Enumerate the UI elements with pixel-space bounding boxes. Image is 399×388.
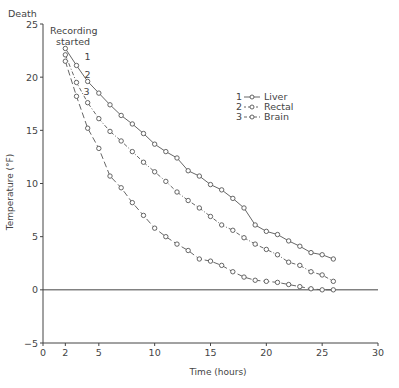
series-line-rectal <box>65 55 333 281</box>
data-point <box>275 232 279 236</box>
data-point <box>286 282 290 286</box>
data-point <box>242 236 246 240</box>
data-point <box>309 270 313 274</box>
data-point <box>309 250 313 254</box>
data-point <box>152 226 156 230</box>
data-point <box>108 174 112 178</box>
data-point <box>264 279 268 283</box>
data-point <box>186 198 190 202</box>
x-axis-title: Time (hours) <box>188 367 246 377</box>
data-point <box>208 214 212 218</box>
y-tick-label: 5 <box>32 231 38 242</box>
data-point <box>164 234 168 238</box>
data-point <box>331 288 335 292</box>
data-point <box>119 113 123 117</box>
data-point <box>298 244 302 248</box>
data-point <box>331 257 335 261</box>
data-point <box>63 59 67 63</box>
data-point <box>264 229 268 233</box>
legend-number: 3 <box>236 111 242 122</box>
data-point <box>97 146 101 150</box>
x-tick-label: 30 <box>372 347 384 358</box>
data-point <box>85 100 89 104</box>
y-tick-label: 25 <box>26 19 38 30</box>
data-point <box>320 253 324 257</box>
data-point <box>97 116 101 120</box>
data-point <box>164 149 168 153</box>
series-line-liver <box>65 48 333 259</box>
x-tick-label: 10 <box>149 347 161 358</box>
series-rectal: 2 <box>63 53 335 284</box>
legend-marker <box>250 95 254 99</box>
legend-label: Brain <box>264 111 289 122</box>
data-point <box>208 182 212 186</box>
data-point <box>219 223 223 227</box>
data-point <box>298 284 302 288</box>
data-point <box>175 156 179 160</box>
data-point <box>275 253 279 257</box>
data-point <box>219 263 223 267</box>
data-point <box>152 142 156 146</box>
data-point <box>63 53 67 57</box>
data-point <box>119 186 123 190</box>
data-point <box>74 63 78 67</box>
data-point <box>186 248 190 252</box>
legend: 1Liver2Rectal3Brain <box>236 91 293 122</box>
data-point <box>231 228 235 232</box>
data-point <box>253 223 257 227</box>
recording-started-line2: started <box>56 36 90 47</box>
y-tick-label: −5 <box>24 338 38 349</box>
x-tick-label: 2 <box>62 347 68 358</box>
curve-label-3: 3 <box>84 86 90 97</box>
data-point <box>253 242 257 246</box>
data-point <box>141 160 145 164</box>
curve-label-1: 1 <box>85 51 91 62</box>
y-tick-label: 10 <box>26 178 38 189</box>
series-layer: 123 <box>63 46 335 292</box>
data-point <box>197 174 201 178</box>
data-point <box>108 129 112 133</box>
data-point <box>197 206 201 210</box>
data-point <box>320 288 324 292</box>
data-point <box>85 126 89 130</box>
data-point <box>208 259 212 263</box>
data-point <box>97 91 101 95</box>
data-point <box>197 257 201 261</box>
data-point <box>264 247 268 251</box>
data-point <box>253 278 257 282</box>
data-point <box>242 206 246 210</box>
y-tick-label: 15 <box>26 125 38 136</box>
axes: −505101520250251015202530 <box>24 19 384 359</box>
data-point <box>231 196 235 200</box>
y-axis-title: Temperature (°F) <box>5 154 15 232</box>
x-tick-label: 25 <box>316 347 328 358</box>
data-point <box>331 279 335 283</box>
data-point <box>320 273 324 277</box>
data-point <box>108 103 112 107</box>
data-point <box>130 122 134 126</box>
x-tick-label: 5 <box>96 347 102 358</box>
data-point <box>152 170 156 174</box>
series-liver: 1 <box>63 46 335 261</box>
data-point <box>275 280 279 284</box>
data-point <box>175 242 179 246</box>
legend-marker <box>250 115 254 119</box>
data-point <box>286 239 290 243</box>
data-point <box>130 149 134 153</box>
x-tick-label: 15 <box>204 347 216 358</box>
x-tick-label: 20 <box>260 347 272 358</box>
data-point <box>186 169 190 173</box>
x-tick-label: 0 <box>40 347 46 358</box>
data-point <box>119 139 123 143</box>
data-point <box>130 200 134 204</box>
data-point <box>175 190 179 194</box>
legend-item-brain: 3Brain <box>236 111 289 122</box>
death-annotation: Death <box>8 8 37 19</box>
legend-marker <box>250 105 254 109</box>
temperature-chart: −505101520250251015202530 123 Death Reco… <box>0 0 399 388</box>
data-point <box>141 131 145 135</box>
data-point <box>74 80 78 84</box>
data-point <box>309 287 313 291</box>
data-point <box>141 213 145 217</box>
data-point <box>242 275 246 279</box>
